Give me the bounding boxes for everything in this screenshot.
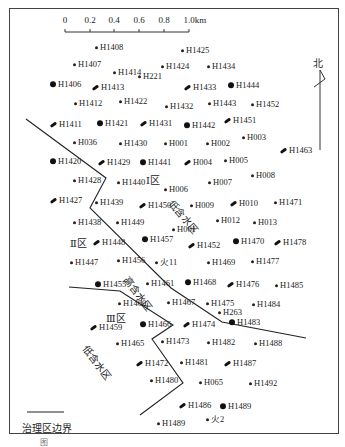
- oil-well-dot-icon: [206, 418, 209, 421]
- well-marker[interactable]: H007: [208, 177, 232, 187]
- well-marker[interactable]: H1486: [179, 400, 211, 410]
- well-marker[interactable]: H1447: [70, 257, 98, 267]
- well-label: H1459: [99, 322, 122, 332]
- well-marker[interactable]: H010: [230, 198, 258, 208]
- oil-well-dot-icon: [164, 188, 167, 191]
- well-marker[interactable]: H013: [253, 217, 277, 227]
- well-marker[interactable]: H1408: [95, 42, 123, 52]
- well-marker[interactable]: H1428: [73, 175, 101, 185]
- well-marker[interactable]: H1485: [275, 280, 303, 290]
- well-marker[interactable]: H1476: [227, 279, 259, 289]
- well-marker[interactable]: H1414: [113, 67, 141, 77]
- well-marker[interactable]: H1427: [50, 195, 82, 205]
- well-marker[interactable]: H1420: [50, 156, 81, 166]
- well-marker[interactable]: H1438: [73, 217, 101, 227]
- well-marker[interactable]: H1425: [181, 45, 209, 55]
- well-marker[interactable]: H1455: [95, 279, 126, 289]
- well-marker[interactable]: H1465: [116, 338, 144, 348]
- well-marker[interactable]: H1449: [116, 217, 144, 227]
- well-marker[interactable]: H1481: [180, 357, 208, 367]
- well-marker[interactable]: H1457: [142, 234, 173, 244]
- well-marker[interactable]: H065: [199, 377, 223, 387]
- well-marker[interactable]: H1406: [50, 79, 81, 89]
- well-marker[interactable]: H1470: [233, 236, 264, 246]
- well-marker[interactable]: H1432: [165, 101, 193, 111]
- well-marker[interactable]: H1468: [185, 277, 216, 287]
- injector-well-icon: [224, 117, 231, 123]
- well-marker[interactable]: H1413: [92, 82, 124, 92]
- well-marker[interactable]: H001: [172, 224, 196, 234]
- well-marker[interactable]: H1444: [228, 80, 259, 90]
- well-marker[interactable]: H1469: [207, 257, 235, 267]
- well-label: H1478: [283, 237, 306, 247]
- well-marker[interactable]: H1434: [207, 61, 235, 71]
- well-marker[interactable]: 火2: [206, 414, 224, 424]
- well-marker[interactable]: H1441: [140, 157, 171, 167]
- well-marker[interactable]: H1478: [274, 237, 306, 247]
- well-marker[interactable]: H221: [138, 71, 162, 81]
- well-marker[interactable]: H1456: [117, 255, 145, 265]
- well-label: H1456: [122, 255, 145, 265]
- well-marker[interactable]: H1442: [184, 120, 215, 130]
- well-marker[interactable]: H1482: [207, 337, 235, 347]
- well-marker[interactable]: H1452: [251, 99, 279, 109]
- well-marker[interactable]: H1472: [136, 358, 168, 368]
- well-marker[interactable]: H1477: [251, 256, 279, 266]
- well-marker[interactable]: H1422: [119, 96, 147, 106]
- well-marker[interactable]: H1492: [249, 378, 277, 388]
- well-marker[interactable]: H1489: [220, 401, 251, 411]
- well-marker[interactable]: H1461: [146, 278, 174, 288]
- well-marker[interactable]: H004: [184, 157, 212, 167]
- oil-well-dot-icon: [208, 181, 211, 184]
- well-marker[interactable]: H1448: [93, 237, 125, 247]
- well-marker[interactable]: 火11: [155, 257, 177, 267]
- well-marker[interactable]: H263: [218, 307, 242, 317]
- well-marker[interactable]: H1474: [183, 319, 215, 329]
- well-marker[interactable]: H002: [206, 138, 230, 148]
- well-marker[interactable]: H005: [224, 155, 248, 165]
- well-marker[interactable]: H001: [164, 138, 188, 148]
- well-marker[interactable]: H1471: [274, 197, 302, 207]
- well-marker[interactable]: H1429: [98, 157, 130, 167]
- well-label: H1466: [148, 319, 171, 329]
- well-marker[interactable]: H009: [190, 200, 214, 210]
- well-marker[interactable]: H1430: [119, 138, 147, 148]
- well-marker[interactable]: H1473: [161, 336, 189, 346]
- well-marker[interactable]: H1460: [118, 298, 146, 308]
- large-well-dot-icon: [229, 319, 235, 325]
- well-marker[interactable]: H1407: [73, 59, 101, 69]
- well-marker[interactable]: H1439: [95, 197, 123, 207]
- injector-well-icon: [136, 360, 143, 366]
- well-marker[interactable]: H1463: [280, 145, 312, 155]
- well-marker[interactable]: H1411: [50, 119, 82, 129]
- well-marker[interactable]: H1443: [208, 98, 236, 108]
- well-marker[interactable]: H036: [73, 137, 97, 147]
- well-marker[interactable]: H012: [216, 215, 240, 225]
- oil-well-dot-icon: [252, 303, 255, 306]
- well-marker[interactable]: H1488: [254, 338, 282, 348]
- well-label: H1443: [213, 98, 236, 108]
- well-marker[interactable]: H1487: [224, 358, 256, 368]
- oil-well-dot-icon: [208, 102, 211, 105]
- well-marker[interactable]: H1452: [188, 240, 220, 250]
- well-marker[interactable]: H1480: [150, 375, 178, 385]
- well-marker[interactable]: H1484: [252, 299, 280, 309]
- well-marker[interactable]: H1467: [167, 297, 195, 307]
- well-label: H1447: [75, 257, 98, 267]
- figure-caption: 图: [40, 436, 48, 447]
- well-marker[interactable]: H1431: [140, 118, 172, 128]
- well-marker[interactable]: H1466: [140, 319, 171, 329]
- well-marker[interactable]: H1489: [157, 418, 185, 428]
- well-marker[interactable]: H003: [242, 132, 266, 142]
- well-marker[interactable]: H006: [164, 184, 188, 194]
- well-marker[interactable]: H1450: [139, 200, 171, 210]
- well-marker[interactable]: H1412: [74, 98, 102, 108]
- well-marker[interactable]: H1483: [229, 317, 260, 327]
- well-marker[interactable]: H1440: [117, 177, 145, 187]
- well-marker[interactable]: H1421: [97, 118, 128, 128]
- well-marker[interactable]: H1433: [184, 82, 216, 92]
- well-marker[interactable]: H1459: [90, 322, 122, 332]
- well-marker[interactable]: H008: [251, 170, 275, 180]
- well-marker[interactable]: H1424: [161, 61, 189, 71]
- well-marker[interactable]: H1451: [224, 115, 256, 125]
